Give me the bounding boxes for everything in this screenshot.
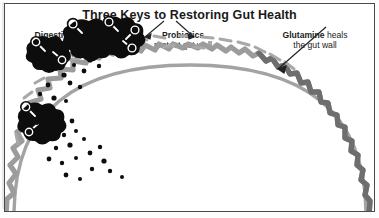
diagram-canvas [4,3,375,212]
glutamine-arrow [278,27,326,73]
gut-wall-arc [14,65,366,212]
gut-health-infographic: Three Keys to Restoring Gut Health Diges… [0,0,379,218]
